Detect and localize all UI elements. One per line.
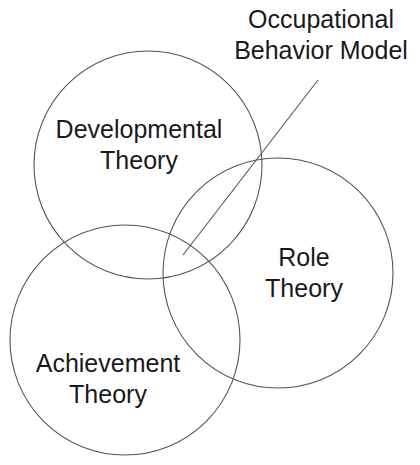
role-label-line1: Role xyxy=(265,242,343,273)
role-theory-label: Role Theory xyxy=(265,242,343,304)
achievement-theory-circle xyxy=(10,225,240,455)
achievement-label-line2: Theory xyxy=(36,379,181,410)
callout-label-line1: Occupational xyxy=(234,4,408,35)
developmental-label-line1: Developmental xyxy=(56,114,223,145)
developmental-theory-label: Developmental Theory xyxy=(56,114,223,176)
developmental-label-line2: Theory xyxy=(56,145,223,176)
callout-label-occupational-behavior-model: Occupational Behavior Model xyxy=(234,4,408,66)
achievement-label-line1: Achievement xyxy=(36,348,181,379)
role-label-line2: Theory xyxy=(265,273,343,304)
achievement-theory-label: Achievement Theory xyxy=(36,348,181,410)
callout-label-line2: Behavior Model xyxy=(234,35,408,66)
